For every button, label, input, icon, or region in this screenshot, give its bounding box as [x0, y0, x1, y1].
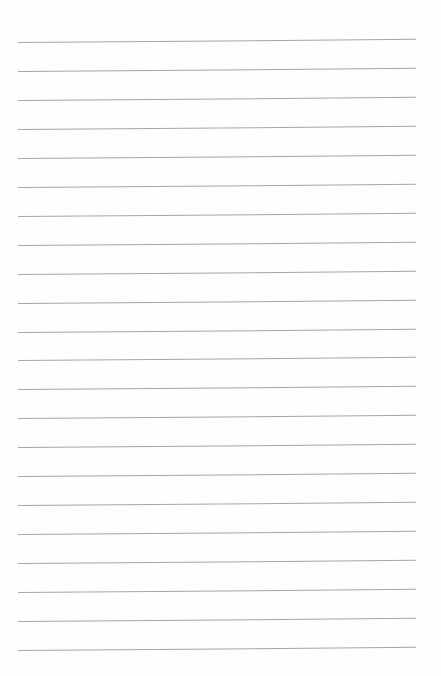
ruled-line [18, 126, 416, 130]
ruled-line [18, 618, 416, 622]
ruled-line [18, 213, 416, 217]
ruled-line [18, 589, 416, 593]
ruled-line [18, 155, 416, 159]
ruled-line [18, 68, 416, 72]
ruled-line [18, 502, 416, 506]
ruled-line [18, 184, 416, 188]
lined-paper-page [0, 0, 441, 676]
ruled-line [18, 299, 416, 303]
ruled-line [18, 97, 416, 101]
ruled-line [18, 647, 416, 651]
ruled-line [18, 531, 416, 535]
ruled-line [18, 242, 416, 246]
ruled-line [18, 328, 416, 332]
ruled-line [18, 386, 416, 390]
ruled-line [18, 270, 416, 274]
ruled-line [18, 560, 416, 564]
ruled-line [18, 39, 416, 43]
ruled-line [18, 357, 416, 361]
ruled-line [18, 444, 416, 448]
ruled-line [18, 473, 416, 477]
ruled-line [18, 415, 416, 419]
